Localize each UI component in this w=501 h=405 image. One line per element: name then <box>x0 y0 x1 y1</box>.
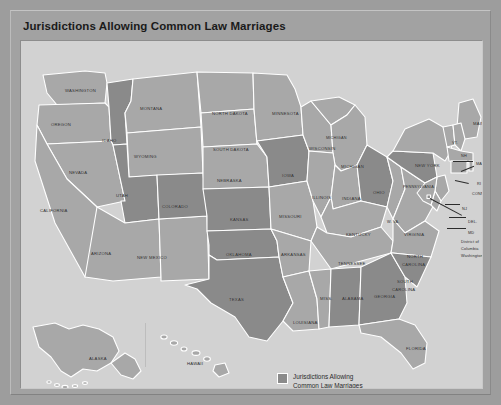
state-colorado[interactable] <box>157 173 207 219</box>
legend-swatch-icon <box>277 373 288 384</box>
legend-line-2: Common Law Marriages <box>293 381 363 389</box>
map-canvas: WASHINGTONOREGONIDAHOMONTANAWYOMINGNEVAD… <box>20 40 483 389</box>
state-oregon[interactable] <box>37 103 111 144</box>
leader-line-nj <box>445 204 460 205</box>
state-north-dakota[interactable] <box>197 72 254 113</box>
figure-frame: Jurisdictions Allowing Common Law Marria… <box>0 0 501 405</box>
state-kansas[interactable] <box>203 187 271 231</box>
state-south-dakota[interactable] <box>201 109 257 147</box>
state-wyoming[interactable] <box>127 127 203 177</box>
title-bar: Jurisdictions Allowing Common Law Marria… <box>11 11 490 40</box>
state-connecticut[interactable] <box>451 161 467 173</box>
state-nebraska[interactable] <box>203 144 269 189</box>
figure-plate: Jurisdictions Allowing Common Law Marria… <box>10 10 491 395</box>
us-map-svg <box>21 41 482 388</box>
state-new-mexico[interactable] <box>159 216 209 281</box>
state-alabama[interactable] <box>329 267 361 327</box>
state-oklahoma[interactable] <box>207 229 279 260</box>
leader-line-del <box>449 217 466 218</box>
leader-line-mass <box>453 161 473 162</box>
inset-divider <box>145 323 146 367</box>
legend-text: Jurisdictions Allowing Common Law Marria… <box>293 372 363 389</box>
state-washington[interactable] <box>43 71 107 105</box>
legend-line-1: Jurisdictions Allowing <box>293 372 363 381</box>
page-title: Jurisdictions Allowing Common Law Marria… <box>23 20 286 32</box>
state-montana[interactable] <box>125 72 201 133</box>
legend: Jurisdictions Allowing Common Law Marria… <box>277 372 363 389</box>
leader-line-md <box>447 228 466 229</box>
